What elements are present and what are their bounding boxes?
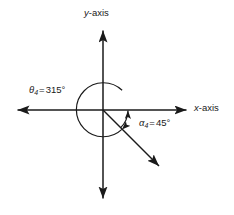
angle-diagram-figure: y-axis x-axis θ4=315° α4=45° — [0, 0, 234, 215]
theta-angle-label: θ4=315° — [29, 85, 65, 96]
alpha-equals: = — [148, 117, 156, 128]
alpha-angle-label: α4=45° — [139, 118, 170, 129]
y-axis-label: y-axis — [84, 8, 109, 18]
alpha-value: 45° — [156, 117, 170, 128]
alpha-angle-arc — [121, 111, 128, 128]
theta-value: 315° — [46, 84, 66, 95]
theta-equals: = — [38, 84, 46, 95]
x-axis-suffix: -axis — [199, 102, 219, 113]
y-axis-suffix: -axis — [89, 7, 109, 18]
x-axis-label: x-axis — [194, 103, 219, 113]
